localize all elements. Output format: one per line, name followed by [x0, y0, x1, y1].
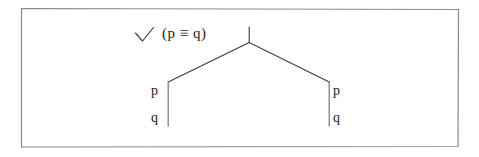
left-branch-node-q: q: [151, 111, 158, 125]
tableau-diagram-svg: [0, 0, 479, 157]
root-formula-label: (p ≡ q): [162, 26, 206, 41]
right-branch-node-q: q: [333, 111, 340, 125]
left-branch-node-p: p: [151, 84, 158, 98]
figure-container: (p ≡ q) p q p q: [0, 0, 479, 157]
figure-border: [22, 9, 459, 148]
right-branch-node-p: p: [333, 84, 340, 98]
